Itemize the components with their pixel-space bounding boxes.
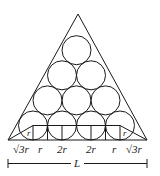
- circle: [77, 61, 106, 90]
- corner-r-label-left: r: [27, 128, 31, 138]
- base-label: r: [112, 143, 117, 155]
- base-label: 2r: [86, 143, 97, 155]
- circle: [48, 61, 77, 90]
- base-label: √3r: [126, 143, 143, 155]
- circle: [33, 86, 62, 115]
- corner-r-label-right: r: [123, 128, 127, 138]
- base-label: 2r: [57, 143, 68, 155]
- dimension-label: L: [73, 157, 80, 169]
- circle: [91, 86, 120, 115]
- base-label: r: [38, 143, 43, 155]
- circle: [62, 86, 91, 115]
- base-label: √3r: [13, 143, 30, 155]
- circle: [62, 36, 91, 65]
- triangle-circles-diagram: r r √3r r 2r 2r r √3r L: [0, 0, 160, 176]
- circles: [19, 36, 135, 140]
